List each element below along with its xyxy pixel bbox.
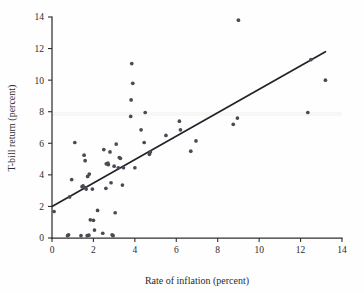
data-point	[231, 122, 235, 126]
data-point	[324, 78, 328, 82]
data-point	[194, 139, 198, 143]
data-point	[91, 187, 95, 191]
data-point	[83, 159, 87, 163]
data-point	[73, 141, 77, 145]
data-point	[93, 228, 97, 232]
x-tick-label: 0	[50, 245, 55, 255]
data-point	[164, 134, 168, 138]
data-point	[236, 116, 240, 120]
data-point	[121, 183, 125, 187]
data-point	[142, 141, 146, 145]
scan-artifact-band	[52, 112, 342, 116]
data-point	[113, 211, 117, 215]
x-tick-label: 6	[174, 245, 179, 255]
data-point	[106, 163, 110, 167]
data-point	[309, 58, 313, 62]
data-point	[306, 111, 310, 115]
data-point	[139, 128, 143, 132]
y-axis-title: T-bill return (percent)	[6, 85, 18, 172]
scatter-plot-figure: 0246810121402468101214 Rate of inflation…	[0, 0, 364, 293]
y-tick-label: 0	[39, 233, 44, 243]
x-tick-label: 10	[254, 245, 264, 255]
data-point	[102, 148, 106, 152]
data-point	[84, 187, 88, 191]
x-tick-label: 4	[132, 245, 137, 255]
data-point	[87, 233, 91, 237]
figure-background	[0, 0, 364, 293]
x-tick-label: 2	[91, 245, 96, 255]
data-point	[109, 181, 113, 185]
x-tick-label: 12	[296, 245, 306, 255]
y-tick-label: 14	[35, 12, 45, 22]
x-tick-label: 14	[337, 245, 347, 255]
data-point	[237, 18, 241, 22]
data-point	[112, 164, 116, 168]
y-tick-label: 6	[39, 139, 44, 149]
data-point	[179, 128, 183, 132]
data-point	[79, 234, 83, 238]
data-point	[101, 231, 105, 235]
data-point	[68, 195, 72, 199]
data-point	[96, 209, 100, 213]
data-point	[116, 166, 120, 170]
data-point	[130, 62, 134, 66]
data-point	[119, 156, 123, 160]
data-point	[67, 233, 71, 237]
y-tick-label: 10	[35, 76, 45, 86]
data-point	[129, 115, 133, 119]
data-point	[114, 142, 118, 146]
y-tick-label: 2	[39, 202, 44, 212]
data-point	[189, 149, 193, 153]
data-point	[178, 119, 182, 123]
data-point	[82, 153, 86, 157]
data-point	[52, 210, 56, 214]
data-point	[131, 81, 135, 85]
data-point	[133, 166, 137, 170]
data-point	[88, 218, 92, 222]
y-tick-label: 4	[39, 170, 44, 180]
x-axis-title: Rate of inflation (percent)	[145, 275, 249, 287]
data-point	[111, 234, 115, 238]
data-point	[70, 178, 74, 182]
y-tick-label: 8	[39, 107, 44, 117]
data-point	[122, 166, 126, 170]
data-point	[92, 218, 96, 222]
data-point	[104, 186, 108, 190]
data-point	[87, 172, 91, 176]
data-point	[129, 98, 133, 102]
data-point	[108, 150, 112, 154]
data-point	[143, 111, 147, 115]
data-point	[149, 150, 153, 154]
y-tick-label: 12	[35, 44, 45, 54]
x-tick-label: 8	[215, 245, 220, 255]
chart-canvas: 0246810121402468101214 Rate of inflation…	[0, 0, 364, 293]
